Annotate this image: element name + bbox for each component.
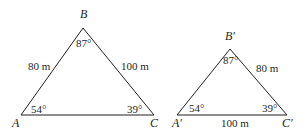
side-b-prime-c-prime-label: 80 m (256, 62, 279, 74)
angle-a-label: 54° (31, 103, 46, 115)
angle-c-prime-label: 39° (262, 102, 277, 114)
triangle-abc: B A C 80 m 100 m 87° 54° 39° (11, 7, 159, 130)
vertex-a-prime-label: A′ (171, 116, 182, 130)
angle-a-prime-label: 54° (189, 102, 204, 114)
side-bc-label: 100 m (121, 60, 149, 72)
angle-b-label: 87° (76, 37, 91, 49)
triangles-diagram: B A C 80 m 100 m 87° 54° 39° B′ A′ C′ 80… (0, 0, 307, 136)
triangle-a-prime-b-prime-c-prime: B′ A′ C′ 80 m 100 m 87° 54° 39° (171, 29, 293, 130)
side-ab-label: 80 m (28, 60, 51, 72)
side-a-prime-c-prime-label: 100 m (221, 117, 249, 129)
vertex-a-label: A (11, 116, 20, 130)
vertex-b-label: B (80, 7, 88, 21)
vertex-c-prime-label: C′ (282, 116, 293, 130)
vertex-b-prime-label: B′ (225, 29, 235, 43)
angle-c-label: 39° (127, 103, 142, 115)
vertex-c-label: C (150, 116, 159, 130)
angle-b-prime-label: 87° (223, 54, 238, 66)
